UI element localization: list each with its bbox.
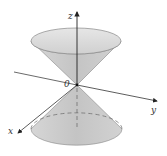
origin-label: 0	[64, 79, 70, 89]
upper-cone-rim	[31, 28, 121, 54]
lower-cone-surface	[31, 85, 122, 145]
y-axis-label: y	[150, 105, 157, 115]
double-cone-diagram: z y x 0	[0, 0, 167, 156]
x-axis-label: x	[8, 126, 13, 136]
origin-point	[76, 84, 79, 87]
z-axis-label: z	[67, 11, 73, 21]
